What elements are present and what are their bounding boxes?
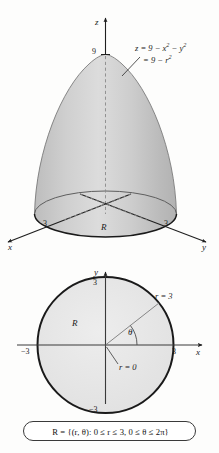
surface-equation-line1: z = 9 − x2 − y2 xyxy=(135,42,186,52)
y-axis-label-2d: y xyxy=(94,268,98,277)
eq-minus-2: − xyxy=(172,43,178,53)
eq-z: z xyxy=(135,43,138,53)
region-definition-box: R = {(r, θ): 0 ≤ r ≤ 3, 0 ≤ θ ≤ 2π} xyxy=(23,421,196,441)
x-axis-label-3d: x xyxy=(8,243,12,252)
eq-equals-2: = xyxy=(143,55,149,65)
surface-equation-line2: = 9 − r2 xyxy=(143,54,172,64)
figure-canvas xyxy=(0,0,219,453)
eq-equals-1: = xyxy=(140,43,146,53)
polar-disk xyxy=(17,272,202,413)
x-axis-label-2d: x xyxy=(196,348,200,357)
eq-minus-1: − xyxy=(155,43,161,53)
region-label-2d: R xyxy=(72,319,78,328)
region-definition-text: R = {(r, θ): 0 ≤ r ≤ 3, 0 ≤ θ ≤ 2π} xyxy=(24,422,197,442)
theta-label: θ xyxy=(128,328,132,337)
x-tick-label-neg3-2d: −3 xyxy=(21,348,30,356)
y-axis-label-3d: y xyxy=(202,243,206,252)
eq-y-exp: 2 xyxy=(183,42,186,48)
x-tick-label-3-2d: 3 xyxy=(172,348,176,356)
eq-nine-2: 9 xyxy=(151,55,155,65)
region-label-3d: R xyxy=(101,223,107,232)
y-tick-label-3-3d: 3 xyxy=(164,220,168,228)
eq-minus-3: − xyxy=(157,55,163,65)
figure-root: z 9 x 3 y 3 R z = 9 − x2 − y2 = 9 − r2 y… xyxy=(0,0,219,453)
z-tick-label-9: 9 xyxy=(92,48,96,56)
x-tick-label-3-3d: 3 xyxy=(43,220,47,228)
y-tick-label-3-2d: 3 xyxy=(93,279,97,287)
radius-outer-label: r = 3 xyxy=(155,292,173,301)
eq-nine-1: 9 xyxy=(148,43,152,53)
z-axis-label: z xyxy=(95,18,99,27)
radius-inner-label: r = 0 xyxy=(119,363,137,372)
y-tick-label-neg3-2d: −3 xyxy=(89,406,98,414)
eq-r-exp: 2 xyxy=(168,54,171,60)
eq-x-exp: 2 xyxy=(166,42,169,48)
